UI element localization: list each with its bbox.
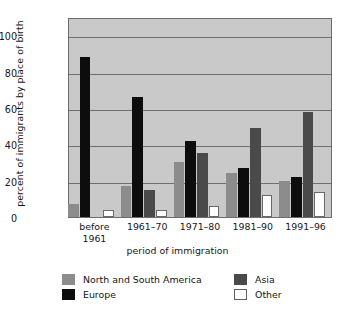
bar-asia (250, 128, 261, 217)
x-tick-label-line1: 1981–90 (233, 221, 273, 232)
legend-row: Europe Other (62, 287, 347, 302)
x-axis-title: period of immigration (0, 245, 355, 256)
legend-row: North and South America Asia (62, 272, 347, 287)
legend-item-other: Other (234, 289, 282, 300)
x-tick-label-line2: 1961 (59, 233, 129, 245)
legend-label-europe: Europe (83, 289, 116, 300)
y-tick-label: 0 (0, 213, 17, 224)
bar-americas (121, 186, 132, 217)
legend-item-asia: Asia (234, 274, 275, 285)
bar-europe (132, 97, 143, 217)
bar-europe (238, 168, 249, 217)
bar-americas (226, 173, 237, 217)
bar-other (156, 210, 167, 217)
legend-item-europe: Europe (62, 289, 234, 300)
bar-chart: percent of immigrants by place of birth … (0, 0, 355, 315)
bar-group (121, 19, 168, 217)
legend-swatch-americas-icon (62, 274, 75, 285)
legend-label-other: Other (255, 289, 282, 300)
x-tick-label-line1: 1961–70 (127, 221, 167, 232)
bar-group (174, 19, 221, 217)
bar-americas (174, 162, 185, 217)
bar-groups (69, 19, 331, 217)
x-tick-label-line1: 1971–80 (180, 221, 220, 232)
legend-swatch-europe-icon (62, 289, 75, 300)
plot-area (68, 18, 332, 218)
bar-europe (291, 177, 302, 217)
y-tick-label: 60 (0, 103, 17, 114)
bar-asia (197, 153, 208, 217)
legend: North and South America Asia Europe Othe… (62, 272, 347, 302)
bar-americas (279, 181, 290, 217)
bar-europe (185, 141, 196, 217)
y-tick-label: 100 (0, 31, 17, 42)
y-tick-label: 80 (0, 67, 17, 78)
bar-americas (68, 204, 79, 217)
x-tick-label-line1: before (79, 221, 109, 232)
bar-other (262, 195, 273, 217)
legend-label-asia: Asia (255, 274, 275, 285)
bar-group (226, 19, 273, 217)
bar-other (103, 210, 114, 217)
y-tick-label: 20 (0, 176, 17, 187)
legend-item-americas: North and South America (62, 274, 234, 285)
bar-europe (80, 57, 91, 217)
x-tick-label: 1991–96 (271, 221, 341, 233)
x-tick-label-line1: 1991–96 (285, 221, 325, 232)
y-tick-label: 40 (0, 140, 17, 151)
legend-label-americas: North and South America (83, 274, 202, 285)
legend-swatch-other-icon (234, 289, 247, 300)
bar-other (209, 206, 220, 217)
bar-group (68, 19, 115, 217)
bar-asia (144, 190, 155, 217)
bar-group (279, 19, 326, 217)
legend-swatch-asia-icon (234, 274, 247, 285)
bar-other (314, 192, 325, 217)
bar-asia (303, 112, 314, 217)
